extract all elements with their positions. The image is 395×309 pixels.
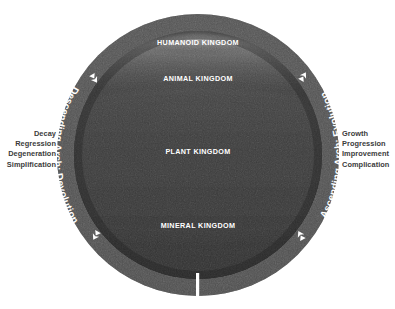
label-animal-kingdom: ANIMAL KINGDOM xyxy=(163,74,232,83)
right-caption-line-4: Complication xyxy=(342,160,395,170)
left-caption-line-4: Simplification xyxy=(0,160,56,170)
left-caption-block: Decay Regression Degeneration Simplifica… xyxy=(0,129,56,170)
left-caption-line-1: Decay xyxy=(0,129,56,139)
left-caption-line-2: Regression xyxy=(0,139,56,149)
kingdoms-circle-diagram: HUMANOID KINGDOM ANIMAL KINGDOM PLANT KI… xyxy=(0,0,395,309)
bottom-tick-mark xyxy=(196,273,199,301)
right-caption-line-2: Progression xyxy=(342,139,395,149)
label-plant-kingdom: PLANT KINGDOM xyxy=(165,147,230,156)
right-caption-line-3: Improvement xyxy=(342,149,395,159)
label-mineral-kingdom: MINERAL KINGDOM xyxy=(161,221,236,230)
diagram-stage: HUMANOID KINGDOM ANIMAL KINGDOM PLANT KI… xyxy=(0,0,395,309)
right-caption-block: Growth Progression Improvement Complicat… xyxy=(342,129,395,170)
right-caption-line-1: Growth xyxy=(342,129,395,139)
left-caption-line-3: Degeneration xyxy=(0,149,56,159)
label-humanoid-kingdom: HUMANOID KINGDOM xyxy=(157,38,239,47)
